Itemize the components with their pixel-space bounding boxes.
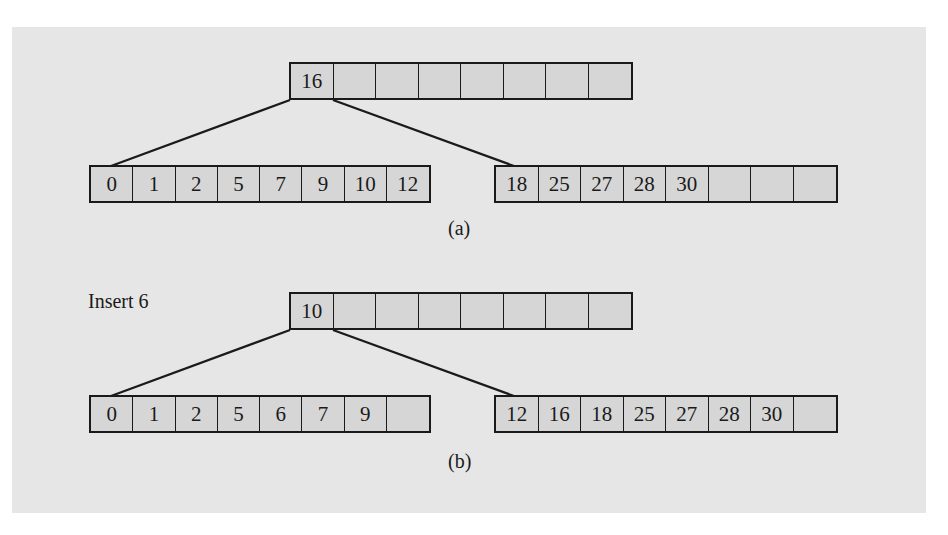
key-cell: 28 [709, 397, 752, 431]
key-cell: 5 [218, 397, 260, 431]
key-cell [751, 167, 794, 201]
key-cell: 10 [345, 167, 387, 201]
key-cell: 9 [302, 167, 344, 201]
key-cell: 9 [345, 397, 387, 431]
key-cell: 10 [291, 294, 334, 328]
key-cell: 30 [666, 167, 709, 201]
key-cell [419, 64, 462, 98]
key-cell [589, 294, 632, 328]
leaf-node-b-left: 0 1 2 5 6 7 9 [89, 395, 431, 433]
key-cell: 16 [291, 64, 334, 98]
key-cell: 2 [176, 397, 218, 431]
caption-b: (b) [448, 450, 471, 473]
leaf-node-a-right: 18 25 27 28 30 [494, 165, 838, 203]
key-cell [387, 397, 429, 431]
key-cell [334, 64, 377, 98]
leaf-node-a-left: 0 1 2 5 7 9 10 12 [89, 165, 431, 203]
key-cell [376, 294, 419, 328]
key-cell: 12 [496, 397, 539, 431]
key-cell: 30 [751, 397, 794, 431]
key-cell [709, 167, 752, 201]
caption-a: (a) [448, 217, 470, 240]
key-cell: 28 [624, 167, 667, 201]
operation-label: Insert 6 [88, 290, 149, 313]
key-cell: 1 [133, 397, 175, 431]
key-cell [589, 64, 632, 98]
key-cell [794, 167, 837, 201]
root-node-b: 10 [289, 292, 633, 330]
key-cell [419, 294, 462, 328]
key-cell: 5 [218, 167, 260, 201]
key-cell [334, 294, 377, 328]
key-cell: 18 [496, 167, 539, 201]
key-cell [504, 64, 547, 98]
key-cell: 6 [260, 397, 302, 431]
key-cell [546, 64, 589, 98]
key-cell: 12 [387, 167, 429, 201]
key-cell: 1 [133, 167, 175, 201]
leaf-node-b-right: 12 16 18 25 27 28 30 [494, 395, 838, 433]
key-cell [376, 64, 419, 98]
key-cell [461, 294, 504, 328]
key-cell: 25 [624, 397, 667, 431]
key-cell: 0 [91, 397, 133, 431]
key-cell: 0 [91, 167, 133, 201]
key-cell: 27 [666, 397, 709, 431]
key-cell: 16 [539, 397, 582, 431]
key-cell [546, 294, 589, 328]
key-cell [461, 64, 504, 98]
key-cell: 7 [302, 397, 344, 431]
root-node-a: 16 [289, 62, 633, 100]
key-cell: 27 [581, 167, 624, 201]
key-cell: 25 [539, 167, 582, 201]
key-cell [504, 294, 547, 328]
key-cell [794, 397, 837, 431]
key-cell: 7 [260, 167, 302, 201]
key-cell: 2 [176, 167, 218, 201]
key-cell: 18 [581, 397, 624, 431]
